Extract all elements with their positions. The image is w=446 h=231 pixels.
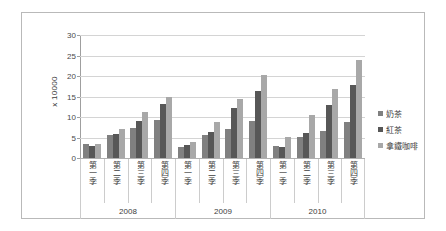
category-label-cell: 第二季 [104,159,128,203]
legend-item[interactable]: 拿鐵咖啡 [378,137,424,153]
year-axis-band: 200820092010 [80,203,365,219]
category-label: 第三季 [135,161,144,185]
bar [332,89,338,158]
bar-group [341,35,365,158]
category-label: 第四季 [349,161,358,185]
chart-legend: 奶茶紅茶拿鐵咖啡 [378,105,424,153]
bar [356,60,362,158]
legend-label: 拿鐵咖啡 [386,140,418,151]
bar [237,99,243,158]
bar [142,112,148,158]
legend-label: 紅茶 [386,124,402,135]
category-label: 第三季 [325,161,334,185]
category-axis-band: 第一季第二季第三季第四季第一季第二季第三季第四季第一季第二季第三季第四季 [80,159,365,203]
bar-group [294,35,318,158]
bar-group [104,35,128,158]
category-label: 第四季 [159,161,168,185]
chart-frame: x 10000 051015202530 第一季第二季第三季第四季第一季第二季第… [21,12,425,219]
bar [119,129,125,158]
bar [95,144,101,158]
bar [166,97,172,159]
bar [261,75,267,158]
year-label-2008: 2008 [80,203,175,219]
category-label: 第二季 [112,161,121,185]
category-label-cell: 第四季 [341,159,365,203]
legend-swatch-icon [378,127,383,132]
bar [214,122,220,158]
y-tick-label-25: 25 [67,51,76,60]
y-tick-label-10: 10 [67,113,76,122]
category-label-cell: 第二季 [199,159,223,203]
category-label-cell: 第三季 [223,159,247,203]
category-label: 第二季 [207,161,216,185]
bar-group [270,35,294,158]
bar-group [246,35,270,158]
category-label-cell: 第二季 [294,159,318,203]
y-tick-label-30: 30 [67,31,76,40]
y-tick-label-0: 0 [72,154,76,163]
category-label: 第二季 [302,161,311,185]
bar-group [318,35,342,158]
y-tick-label-15: 15 [67,92,76,101]
bar [285,137,291,158]
year-label-2010: 2010 [270,203,365,219]
bar-group [151,35,175,158]
y-tick-label-20: 20 [67,72,76,81]
bar-group [175,35,199,158]
category-label: 第一季 [278,161,287,185]
category-label-cell: 第三季 [128,159,152,203]
category-label: 第一季 [88,161,97,185]
category-label-cell: 第四季 [246,159,270,203]
category-label-cell: 第一季 [270,159,294,203]
bar-group [223,35,247,158]
legend-item[interactable]: 奶茶 [378,105,424,121]
category-label-cell: 第一季 [80,159,104,203]
y-tick-label-5: 5 [72,133,76,142]
category-label: 第四季 [254,161,263,185]
bar-group [199,35,223,158]
bar-group [80,35,104,158]
legend-swatch-icon [378,111,383,116]
legend-label: 奶茶 [386,108,402,119]
category-label-cell: 第一季 [175,159,199,203]
legend-item[interactable]: 紅茶 [378,121,424,137]
bar [190,142,196,158]
bar [309,115,315,158]
plot-area: 051015202530 [80,35,365,158]
category-label-cell: 第三季 [318,159,342,203]
y-axis-title: x 10000 [50,72,59,112]
year-label-2009: 2009 [175,203,270,219]
category-label-cell: 第四季 [151,159,175,203]
legend-swatch-icon [378,143,383,148]
bar-group [128,35,152,158]
category-label: 第一季 [183,161,192,185]
category-label: 第三季 [230,161,239,185]
